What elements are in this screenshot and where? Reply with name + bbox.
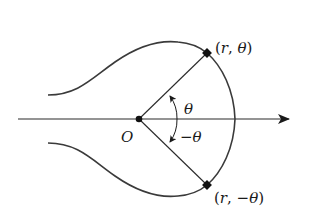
label-angle: θ [238, 39, 247, 57]
angle-label-neg-theta: −θ [180, 128, 202, 146]
point-lower-label: (r, −θ) [214, 189, 264, 207]
ray-to-upper-point [139, 53, 207, 119]
origin-point [136, 116, 143, 123]
label-sep: , [228, 39, 238, 57]
angle-label-theta: θ [184, 100, 193, 118]
label-angle: −θ [237, 189, 259, 207]
angle-arc-neg-theta [170, 119, 177, 142]
point-upper-label: (r, θ) [215, 39, 252, 57]
origin-label: O [121, 128, 133, 146]
label-sep: , [227, 189, 237, 207]
angle-arc-theta [170, 96, 177, 119]
paren-close: ) [258, 189, 264, 207]
paren-close: ) [247, 39, 253, 57]
polar-symmetry-diagram: O θ −θ (r, θ) (r, −θ) [0, 0, 313, 219]
